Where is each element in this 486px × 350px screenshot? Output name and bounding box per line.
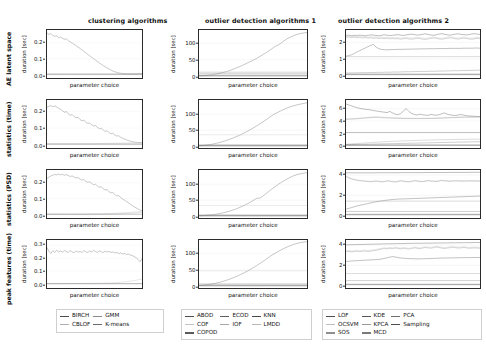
legend-line-icon [326,324,335,325]
y-tick-label: 0.0 [34,143,43,149]
plot-svg [47,240,142,288]
legend-line-icon [185,316,194,317]
plot-area [345,99,481,149]
legend-line-icon [326,316,335,317]
legend-item[interactable]: IOF [217,320,248,328]
y-tick-label: 0 [192,144,195,150]
y-tick-label: 0.3 [34,241,43,247]
legend-item[interactable]: LOF [323,312,359,320]
chart-panel: duration [sec]024parameter choice [0,0,486,350]
y-tick-label: 100 [185,181,195,187]
y-tick-label: 0 [339,143,342,149]
x-axis-label: parameter choice [198,292,308,298]
y-axis-label: duration [sec] [318,169,327,219]
y-tick-mark [343,108,345,109]
y-tick-mark [343,120,345,121]
legend-line-icon [362,332,371,333]
x-axis-label: parameter choice [46,152,143,158]
chart-panel: duration [sec]050100parameter choice [0,0,486,350]
y-tick-mark [343,174,345,175]
y-tick-label: 0 [339,73,342,79]
legend-label: LOF [338,313,349,319]
y-tick-mark [196,60,198,61]
clustering-algorithms-legend[interactable]: BIRCHCBLOFGMMK-means [56,309,164,333]
legend-item[interactable]: Sampling [388,320,429,328]
y-tick-label: 0 [339,283,342,289]
legend-item[interactable]: KPCA [359,320,389,328]
y-tick-group: 050100 [173,99,197,149]
y-tick-label: 100 [185,250,195,256]
row-label-peak-features-time: peak features (time) [2,238,14,300]
y-axis-label: duration [sec] [168,99,177,149]
legend-item[interactable]: ECOD [217,312,248,320]
legend-column: GMMK-means [90,312,129,332]
legend-item[interactable]: KNN [249,312,281,320]
y-tick-mark [196,130,198,131]
y-tick-label: 1 [339,56,342,62]
y-tick-label: 50 [189,127,196,133]
legend-label: KPCA [374,322,389,328]
y-tick-mark [343,42,345,43]
legend-item[interactable]: ABOD [182,312,217,320]
y-tick-mark [196,42,198,43]
y-tick-mark [43,244,45,245]
y-tick-group: 0.00.10.2 [24,29,44,79]
legend-column: KDEKPCAMCD [359,312,389,339]
y-tick-mark [196,184,198,185]
chart-panel: duration [sec]0.00.10.2parameter choice [0,0,486,350]
y-tick-mark [43,199,45,200]
legend-item[interactable]: COPOD [182,329,217,337]
y-tick-label: 2 [339,262,342,268]
legend-item[interactable]: BIRCH [57,312,90,320]
x-axis-label: parameter choice [46,82,143,88]
legend-line-icon [185,324,194,325]
legend-line-icon [252,316,261,317]
legend-item[interactable]: PCA [388,312,429,320]
plot-svg [346,100,480,148]
y-axis-label: duration [sec] [318,29,327,79]
y-axis-label: duration [sec] [19,99,28,149]
y-tick-label: 0.0 [34,73,43,79]
outlier-detection-1-legend[interactable]: ABODCOFCOPODECODIOFKNNLMDD [181,309,312,340]
y-tick-mark [343,195,345,196]
x-axis-label: parameter choice [345,82,481,88]
legend-column: KNNLMDD [249,312,281,339]
y-tick-mark [43,42,45,43]
y-tick-group: 050100 [173,29,197,79]
plot-svg [346,30,480,78]
figure-root: clustering algorithms outlier detection … [0,0,486,350]
legend-item[interactable]: LMDD [249,320,281,328]
x-axis-label: parameter choice [198,152,308,158]
legend-line-icon [60,324,69,325]
y-tick-mark [43,215,45,216]
legend-label: PCA [403,313,414,319]
y-tick-mark [43,75,45,76]
plot-svg [47,170,142,218]
chart-panel: duration [sec]050100parameter choice [0,0,486,350]
y-tick-mark [343,244,345,245]
y-tick-label: 100 [185,40,195,46]
legend-label: Sampling [403,322,429,328]
legend-item[interactable]: COF [182,320,217,328]
legend-item[interactable]: GMM [90,312,129,320]
legend-item[interactable]: SOS [323,329,359,337]
legend-line-icon [60,316,69,317]
plot-area [46,29,143,79]
legend-item[interactable]: CBLOF [57,320,90,328]
plot-area [46,169,143,219]
x-axis-label: parameter choice [345,222,481,228]
y-tick-mark [343,59,345,60]
x-axis-label: parameter choice [198,222,308,228]
y-tick-mark [196,270,198,271]
y-tick-label: 4 [339,118,342,124]
y-tick-mark [343,265,345,266]
legend-column: ECODIOF [217,312,248,339]
legend-item[interactable]: MCD [359,329,389,337]
legend-item[interactable]: K-means [90,320,129,328]
legend-item[interactable]: KDE [359,312,389,320]
y-tick-mark [43,285,45,286]
plot-area [46,99,143,149]
outlier-detection-2-legend[interactable]: LOFOCSVMSOSKDEKPCAMCDPCASampling [322,309,482,340]
legend-item[interactable]: OCSVM [323,320,359,328]
legend-column: LOFOCSVMSOS [323,312,359,339]
